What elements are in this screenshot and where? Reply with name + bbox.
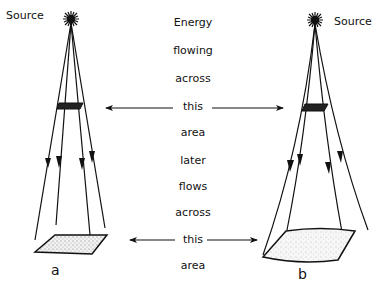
caption-word: later	[180, 154, 205, 167]
caption-word: this	[183, 233, 203, 246]
source-label-left: Source	[6, 9, 44, 22]
caption-word: Energy	[174, 16, 213, 29]
caption-word: this	[183, 100, 203, 113]
pyramid-b	[263, 12, 368, 262]
caption-word: flowing	[173, 44, 213, 57]
caption-word: across	[175, 206, 210, 219]
caption-word: flows	[179, 180, 207, 193]
caption-word: area	[181, 126, 206, 139]
large-area-b	[263, 229, 355, 262]
caption-word: across	[175, 72, 210, 85]
pyramid-a	[35, 11, 107, 254]
source-label-right: Source	[334, 15, 372, 28]
small-area-a	[57, 103, 83, 109]
small-area-b	[302, 104, 328, 111]
label-a: a	[51, 262, 60, 278]
caption-word: area	[181, 259, 206, 272]
label-b: b	[298, 266, 307, 282]
large-area-a	[35, 235, 107, 254]
